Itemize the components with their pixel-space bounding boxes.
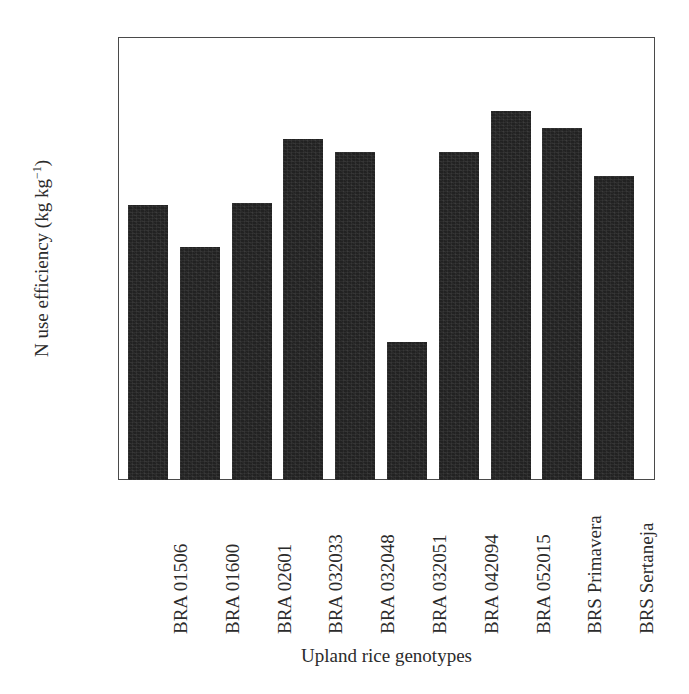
x-tick-label: BRS Sertaneja	[627, 484, 667, 634]
x-tick-label: BRA 042094	[472, 484, 512, 634]
bars-layer	[118, 37, 655, 480]
bar	[439, 152, 479, 481]
x-axis-tick-labels: BRA 01506BRA 01600BRA 02601BRA 032033BRA…	[118, 484, 655, 634]
bar-chart-figure: 051015202530 N use efficiency (kg kg−1) …	[0, 0, 689, 694]
bar	[542, 128, 582, 480]
x-tick-label: BRA 02601	[265, 484, 305, 634]
x-tick-label: BRA 032051	[420, 484, 460, 634]
x-tick-label: BRA 032033	[316, 484, 356, 634]
x-tick-label: BRA 01506	[161, 484, 201, 634]
x-tick-label: BRA 01600	[213, 484, 253, 634]
bar	[180, 247, 220, 480]
bar	[335, 152, 375, 481]
x-tick-label: BRA 032048	[368, 484, 408, 634]
bar	[283, 139, 323, 480]
x-axis-title: Upland rice genotypes	[118, 645, 655, 667]
y-axis-title: N use efficiency (kg kg−1)	[22, 37, 52, 480]
bar	[128, 205, 168, 480]
bar	[387, 342, 427, 480]
bar	[594, 176, 634, 480]
y-axis-title-exponent: −1	[30, 166, 44, 179]
bar	[491, 111, 531, 480]
x-tick-label: BRA 052015	[524, 484, 564, 634]
x-tick-label: BRS Primavera	[575, 484, 615, 634]
bar	[232, 203, 272, 480]
y-axis: 051015202530	[0, 0, 118, 694]
